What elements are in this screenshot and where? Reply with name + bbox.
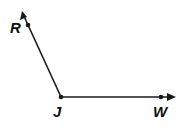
label-j: J [53,103,62,120]
label-w: W [153,103,169,120]
arrowhead-w-icon [167,93,176,101]
label-r: R [10,19,21,36]
angle-diagram: R J W [0,0,186,132]
point-w [159,95,164,100]
point-r [26,23,31,28]
point-j [59,95,64,100]
